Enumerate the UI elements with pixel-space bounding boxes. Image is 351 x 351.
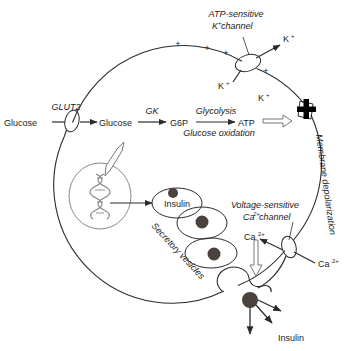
glucose-extracellular-label: Glucose [4,118,37,128]
glucose-intracellular-label: Glucose [99,118,132,128]
membrane-plus-4: + [263,66,268,76]
svg-text:K: K [258,93,264,103]
insulin-released-label: Insulin [278,333,304,343]
svg-text:Ca: Ca [318,259,330,269]
k-out-label: K + [283,33,295,44]
atp-label: ATP [238,118,255,128]
glut2-label: GLUT2 [51,102,80,112]
ca-channel-label-line2: Ca 2+ channel [243,211,292,222]
ca-extracellular-label: Ca 2+ [318,258,339,269]
glut2-transporter [63,109,82,134]
membrane-plus-1: + [175,39,180,49]
g6p-label: G6P [170,118,188,128]
insulin-granule [242,292,258,308]
hollow-arrow-to-nucleus [105,142,124,176]
svg-text:+: + [226,80,230,86]
svg-text:2+: 2+ [258,231,265,237]
ca-channel-label-line1: Voltage-sensitive [231,200,299,210]
svg-text:channel: channel [221,21,254,31]
katp-channel-label-line1: ATP-sensitive [208,9,264,19]
katp-channel-label-line2: K + channel [212,20,254,31]
calcium-influx-arrow [260,239,283,250]
svg-text:2+: 2+ [332,258,339,264]
svg-text:K: K [283,34,289,44]
membrane-plus-3: + [223,48,228,58]
hollow-arrow-atp-to-channel [263,115,292,127]
svg-text:channel: channel [259,212,292,222]
svg-text:K: K [218,81,224,91]
k-low-label: K + [258,92,270,103]
nucleus [69,163,131,229]
dna-helix-icon [90,174,110,219]
glycolysis-label: Glycolysis [196,106,237,116]
svg-text:+: + [291,33,295,39]
secretory-vesicles-label: Secretory vesicles [150,221,207,282]
katp-channel [233,51,263,74]
hollow-arrow-calcium-signal [250,240,262,276]
depolarization-cross-marker [297,99,316,119]
katp-leader-line [243,37,249,55]
insulin-secretion-diagram: + + + + [0,0,351,351]
membrane-depolarization-label: Membrane depolarization [314,134,338,236]
svg-text:+: + [266,92,270,98]
calcium-external-line [294,252,315,263]
glucose-oxidation-label: Glucose oxidation [183,128,255,138]
insulin-vesicle-label: Insulin [164,199,190,209]
svg-text:Ca: Ca [244,232,256,242]
diagram-canvas: + + + + [0,0,351,351]
gk-enzyme-label: GK [145,106,159,116]
k-mid-label: K + [218,80,230,91]
k-influx-arrow [233,70,241,82]
k-efflux-arrow [256,45,280,58]
membrane-plus-2: + [204,43,209,53]
vesicle-2 [177,207,227,239]
